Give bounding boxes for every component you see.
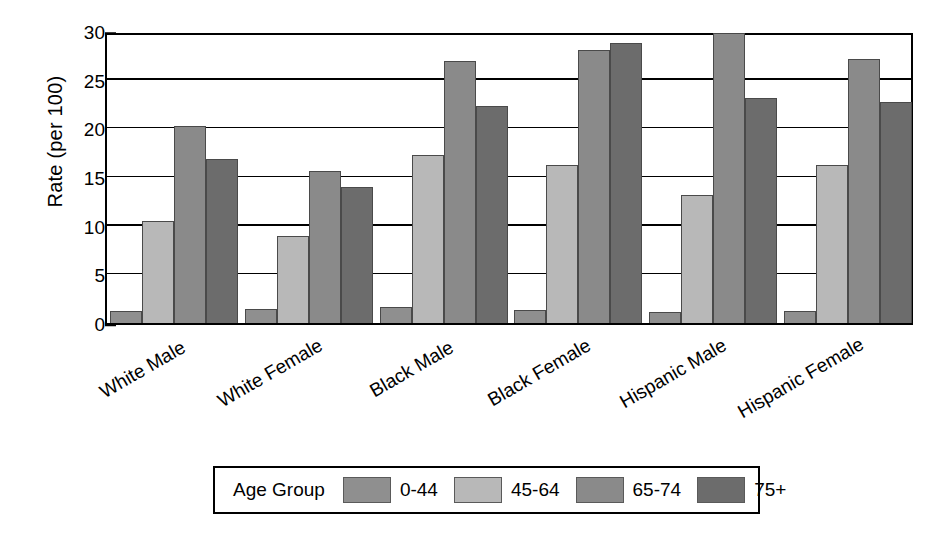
bar: [412, 155, 444, 323]
bar: [514, 310, 546, 323]
bar-group: [242, 35, 377, 323]
legend-swatch: [576, 477, 624, 503]
y-tick-label: 15: [45, 168, 105, 190]
bar-group: [376, 35, 511, 323]
bar: [341, 187, 373, 323]
bar: [380, 307, 412, 323]
y-tick-label: 25: [45, 71, 105, 93]
bar: [110, 311, 142, 323]
x-category-label: White Male: [96, 336, 189, 403]
y-axis-ticks: 051015202530: [35, 33, 105, 325]
bar: [880, 102, 912, 323]
legend-title: Age Group: [233, 479, 325, 501]
bar-group: [646, 35, 781, 323]
legend-swatch: [454, 477, 502, 503]
bar: [713, 33, 745, 323]
bar: [309, 171, 341, 323]
x-category-label: Hispanic Female: [734, 333, 868, 423]
bar: [476, 106, 508, 323]
bar-group: [107, 35, 242, 323]
x-category-label: Hispanic Male: [616, 334, 730, 413]
bar: [816, 165, 848, 323]
bar: [245, 309, 277, 323]
legend-swatch: [697, 477, 745, 503]
legend-swatch: [343, 477, 391, 503]
y-tick-label: 20: [45, 119, 105, 141]
legend-label: 0-44: [400, 479, 438, 501]
legend-entry: 65-74: [576, 477, 682, 503]
bar: [745, 98, 777, 323]
bar: [784, 311, 816, 323]
legend-entry: 0-44: [343, 477, 438, 503]
y-tick-label: 30: [45, 22, 105, 44]
y-tick-label: 5: [45, 265, 105, 287]
bar: [277, 236, 309, 323]
y-tick-label: 0: [45, 314, 105, 336]
legend-label: 75+: [754, 479, 786, 501]
x-category-label: Black Male: [366, 336, 457, 402]
bar: [206, 159, 238, 323]
bar: [546, 165, 578, 323]
bar-group: [511, 35, 646, 323]
legend-entry: 75+: [697, 477, 786, 503]
x-category-label: Black Female: [484, 335, 595, 412]
legend-label: 65-74: [633, 479, 682, 501]
legend-entries: 0-4445-6465-7475+: [343, 477, 802, 503]
bar: [610, 43, 642, 323]
legend-entry: 45-64: [454, 477, 560, 503]
x-category-label: White Female: [214, 335, 327, 413]
bar: [848, 59, 880, 323]
bar: [681, 195, 713, 323]
legend-label: 45-64: [511, 479, 560, 501]
bar: [142, 221, 174, 323]
bar-group: [780, 35, 915, 323]
y-tick-label: 10: [45, 217, 105, 239]
bar: [649, 312, 681, 323]
bar: [578, 50, 610, 324]
bar-chart-figure: Rate (per 100) 051015202530 White MaleWh…: [0, 0, 940, 534]
chart-legend: Age Group 0-4445-6465-7475+: [213, 466, 760, 514]
plot-inner: [107, 35, 911, 323]
bar: [174, 126, 206, 323]
bar: [444, 61, 476, 323]
plot-area: [105, 33, 913, 325]
